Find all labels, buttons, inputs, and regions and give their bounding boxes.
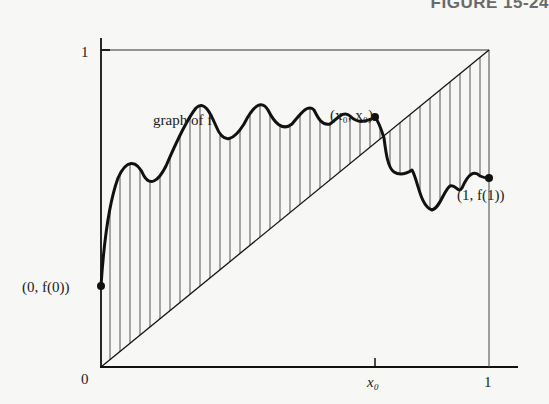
left-endpoint-dot bbox=[97, 282, 105, 290]
x0-tick-label: x₀ bbox=[366, 374, 379, 390]
fixed-point-label: (x₀, x₀) bbox=[330, 107, 373, 124]
right-endpoint-dot bbox=[485, 174, 493, 182]
graph-of-f-label: graph of f bbox=[153, 112, 212, 128]
right-endpoint-label: (1, f(1)) bbox=[457, 187, 504, 204]
graph-of-f-curve bbox=[101, 105, 489, 286]
y-one-label: 1 bbox=[81, 44, 89, 60]
left-endpoint-label: (0, f(0)) bbox=[22, 279, 69, 296]
origin-label: 0 bbox=[81, 371, 89, 387]
x-one-label: 1 bbox=[484, 374, 492, 390]
